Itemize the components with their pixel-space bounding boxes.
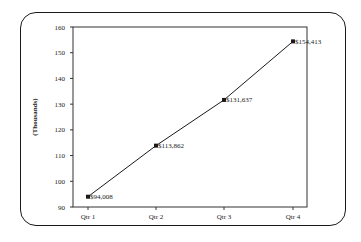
x-tick-label: Qtr 3 [217,213,232,221]
y-tick-label: 130 [55,101,66,109]
y-tick-label: 160 [55,24,66,32]
y-tick-label: 120 [55,126,66,134]
data-label: $154,413 [295,38,322,46]
x-tick-label: Qtr 1 [81,213,96,221]
data-label: $113,862 [158,142,184,150]
y-tick-label: 150 [55,49,66,57]
x-tick-label: Qtr 4 [286,213,301,221]
data-line [88,41,293,196]
data-label: $131,637 [226,96,253,104]
y-tick-label: 90 [58,204,66,212]
line-chart: 90100110120130140150160Qtr 1Qtr 2Qtr 3Qt… [0,0,361,242]
y-tick-label: 140 [55,75,66,83]
data-label: $94,008 [90,193,113,201]
plot-border [73,27,307,207]
x-tick-label: Qtr 2 [149,213,164,221]
plot-area: 90100110120130140150160Qtr 1Qtr 2Qtr 3Qt… [55,24,322,222]
y-tick-label: 110 [55,152,66,160]
y-axis-title: (Thousands) [31,98,39,136]
y-tick-label: 100 [55,178,66,186]
